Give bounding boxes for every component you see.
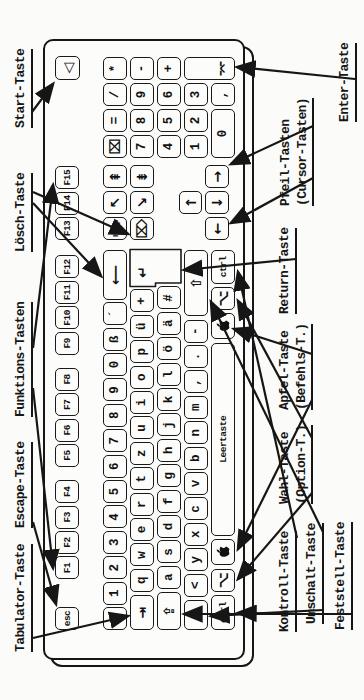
label-feststell-taste: Feststell-Taste [333, 522, 353, 630]
arrow-funktions-to-f1 [33, 388, 53, 568]
label-umschalt-taste: Umschalt-Taste [304, 523, 324, 624]
label-tabulator-taste: Tabulator-Taste [13, 544, 33, 652]
label-funktions-taste: Funktions-Tasten [13, 302, 33, 417]
label-wahl-taste: Wahl-Taste (Option-T.) [277, 425, 313, 504]
label-escape-taste: Escape-Taste [13, 442, 33, 528]
label-pfeil-taste: Pfeil-Tasten (Cursor-Tasten) [278, 98, 314, 206]
label-start-taste: Start-Taste [13, 49, 33, 128]
label-loesch-taste: Lösch-Taste [13, 173, 33, 252]
label-enter-taste: Enter-Taste [337, 43, 357, 122]
arrow-funktions-to-f15 [33, 185, 53, 348]
label-kontroll-taste: Kontroll-Taste [277, 531, 297, 632]
label-return-taste: Return-Taste [277, 228, 297, 314]
label-apfel-taste: Apfel-Taste (Befehls-T.) [277, 324, 313, 410]
rotated-diagram: escF1F2F3F4F5F6F7F8F9F10F11F12F13F14F15◁… [0, 0, 364, 700]
arrow-start-to-power [32, 84, 53, 112]
arrow-tabulator-to-tab [33, 616, 128, 638]
arrow-wahl-to-lopt [238, 493, 312, 579]
return-icon[interactable]: ↵ [131, 261, 153, 283]
keyboard-diagram-page: escF1F2F3F4F5F6F7F8F9F10F11F12F13F14F15◁… [0, 0, 364, 700]
